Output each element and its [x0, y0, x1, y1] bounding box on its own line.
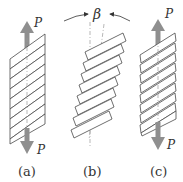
laminate-block-a: [10, 34, 45, 144]
force-label-top-a: P: [33, 16, 43, 30]
angle-beta-label: β: [92, 6, 101, 22]
panel-label-b: (b): [83, 164, 101, 179]
panel-label-c: (c): [150, 164, 167, 179]
force-label-bottom-c: P: [166, 138, 176, 152]
panel-b: β (b): [64, 6, 130, 179]
force-label-bottom-a: P: [36, 143, 46, 157]
panel-label-a: (a): [18, 164, 36, 179]
angle-arc-left: [64, 14, 88, 21]
panel-a: P P (a): [10, 16, 46, 179]
panel-c: P P (c): [140, 7, 176, 179]
sheared-strips-b: [71, 33, 126, 138]
laminate-diagram: P P (a) β (b): [0, 0, 183, 182]
laminate-block-c: [140, 33, 176, 136]
angle-arc-right: [110, 14, 130, 21]
force-label-top-c: P: [164, 7, 174, 21]
